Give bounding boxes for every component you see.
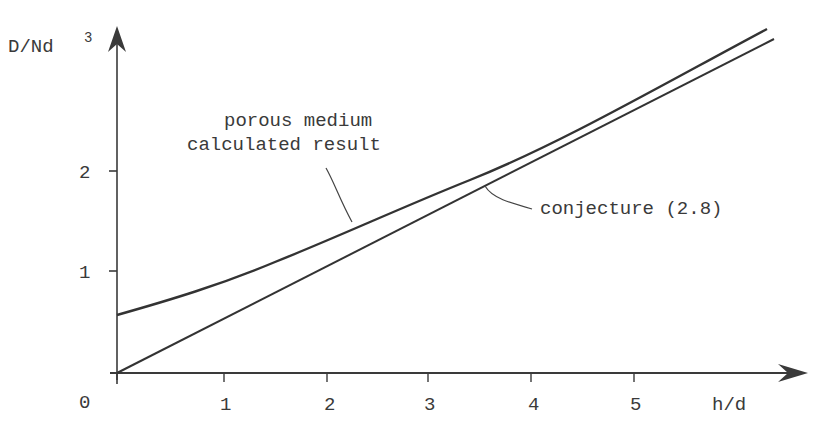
y-axis-label-superscript: 3 [84,30,92,46]
y-tick-label-1: 1 [79,262,90,284]
annotation-porous-line1: porous medium [224,110,372,132]
y-axis [108,26,126,380]
annotation-porous-line2: calculated result [187,134,381,156]
x-tick-label-2: 2 [324,394,335,416]
x-axis [110,364,808,384]
leader-line-porous [326,168,352,222]
x-axis-label: h/d [712,394,746,416]
y-tick-label-2: 2 [79,162,90,184]
x-tick-label-4: 4 [528,394,539,416]
annotation-conjecture: conjecture (2.8) [540,198,722,220]
chart-canvas: D/Nd 3 2 1 0 1 2 3 4 5 h/d porous medium… [0,0,821,439]
series-porous-medium-curve [117,29,767,315]
x-tick-label-5: 5 [630,394,641,416]
origin-label: 0 [79,392,90,414]
y-axis-label: D/Nd [8,36,54,58]
x-tick-label-3: 3 [424,394,435,416]
x-tick-label-1: 1 [220,394,231,416]
leader-line-conjecture [485,186,532,209]
